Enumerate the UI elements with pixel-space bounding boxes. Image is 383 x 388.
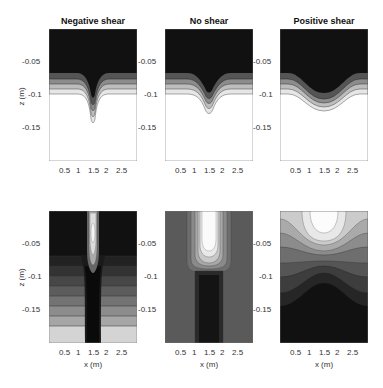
- xtick-label: 0.5: [59, 166, 70, 175]
- ytick-label: -0.1: [28, 272, 42, 281]
- xtick-label: 0.5: [175, 166, 186, 175]
- ytick-label: -0.05: [138, 57, 156, 66]
- ytick-label: -0.05: [22, 239, 40, 248]
- ylabel-bottom: z (m): [17, 268, 26, 286]
- ylabel-top: z (m): [17, 87, 26, 105]
- plot-positive-shear-bottom: [280, 211, 368, 343]
- xtick-label: 0.5: [59, 348, 70, 357]
- panel-title-negative-shear: Negative shear: [49, 16, 137, 26]
- plot-negative-shear-top: [49, 29, 137, 161]
- xtick-label: 2.5: [116, 166, 127, 175]
- xtick-label: 1.5: [319, 348, 330, 357]
- xlabel: x (m): [49, 360, 137, 369]
- panel-title-positive-shear: Positive shear: [280, 16, 368, 26]
- ytick-label: -0.1: [259, 272, 273, 281]
- ytick-label: -0.15: [253, 305, 271, 314]
- xtick-label: 1: [307, 166, 311, 175]
- plot-no-shear-top: [165, 29, 253, 161]
- xtick-label: 2.5: [116, 348, 127, 357]
- ytick-label: -0.1: [144, 272, 158, 281]
- xlabel: x (m): [165, 360, 253, 369]
- xtick-label: 1: [307, 348, 311, 357]
- xtick-label: 1.5: [204, 166, 215, 175]
- ytick-label: -0.1: [259, 90, 273, 99]
- xtick-label: 2: [335, 348, 339, 357]
- ytick-label: -0.1: [28, 90, 42, 99]
- xlabel: x (m): [280, 360, 368, 369]
- xtick-label: 2.5: [347, 166, 358, 175]
- xtick-label: 1: [76, 348, 80, 357]
- ytick-label: -0.05: [138, 239, 156, 248]
- ytick-label: -0.05: [253, 239, 271, 248]
- xtick-label: 2: [335, 166, 339, 175]
- xtick-label: 2.5: [347, 348, 358, 357]
- xtick-label: 1: [192, 166, 196, 175]
- ytick-label: -0.15: [138, 305, 156, 314]
- xtick-label: 1.5: [204, 348, 215, 357]
- xtick-label: 1.5: [319, 166, 330, 175]
- ytick-label: -0.15: [138, 123, 156, 132]
- ytick-label: -0.05: [22, 57, 40, 66]
- ytick-label: -0.15: [253, 123, 271, 132]
- xtick-label: 0.5: [175, 348, 186, 357]
- xtick-label: 0.5: [290, 166, 301, 175]
- xtick-label: 2: [220, 166, 224, 175]
- xtick-label: 2.5: [232, 166, 243, 175]
- xtick-label: 2: [104, 348, 108, 357]
- xtick-label: 2: [104, 166, 108, 175]
- xtick-label: 0.5: [290, 348, 301, 357]
- ytick-label: -0.15: [22, 123, 40, 132]
- xtick-label: 1.5: [88, 166, 99, 175]
- ytick-label: -0.1: [144, 90, 158, 99]
- xtick-label: 1.5: [88, 348, 99, 357]
- panel-title-no-shear: No shear: [165, 16, 253, 26]
- ytick-label: -0.05: [253, 57, 271, 66]
- ytick-label: -0.15: [22, 305, 40, 314]
- plot-positive-shear-top: [280, 29, 368, 161]
- plot-no-shear-bottom: [165, 211, 253, 343]
- xtick-label: 2.5: [232, 348, 243, 357]
- xtick-label: 1: [76, 166, 80, 175]
- xtick-label: 2: [220, 348, 224, 357]
- xtick-label: 1: [192, 348, 196, 357]
- plot-negative-shear-bottom: [49, 211, 137, 343]
